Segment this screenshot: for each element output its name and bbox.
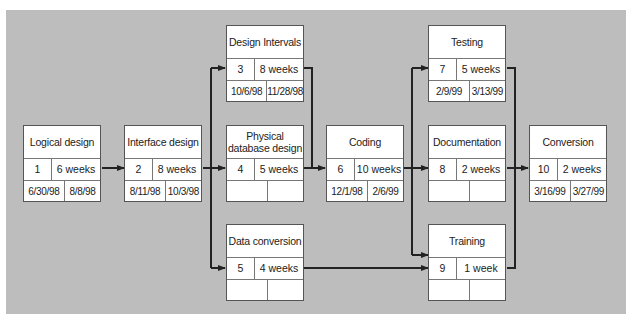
task-number: 7 — [429, 58, 457, 80]
task-start-date — [429, 280, 470, 300]
arrow-3-to-6 — [303, 68, 312, 168]
task-end-date: 3/27/99 — [571, 181, 606, 201]
task-number: 3 — [227, 58, 255, 80]
task-node-interface-design: Interface design 28 weeks 8/11/9810/3/98 — [124, 125, 202, 202]
task-end-date: 10/3/98 — [166, 181, 201, 201]
task-end-date: 11/28/98 — [267, 81, 303, 101]
task-duration: 2 weeks — [558, 158, 606, 180]
task-end-date — [268, 280, 303, 300]
task-duration: 8 weeks — [255, 58, 303, 80]
task-duration: 5 weeks — [457, 58, 505, 80]
task-node-design-intervals: Design Intervals 38 weeks 10/6/9811/28/9… — [226, 25, 304, 102]
task-number: 4 — [227, 158, 255, 180]
task-number: 1 — [24, 158, 52, 180]
task-end-date — [470, 280, 505, 300]
task-title: Design Intervals — [227, 26, 303, 59]
task-start-date: 2/9/99 — [429, 81, 470, 101]
task-node-conversion: Conversion 102 weeks 3/16/993/27/99 — [529, 125, 607, 202]
task-number: 5 — [227, 257, 255, 279]
task-duration: 6 weeks — [52, 158, 100, 180]
task-node-data-conversion: Data conversion 54 weeks — [226, 224, 304, 301]
task-start-date — [429, 181, 470, 201]
task-duration: 5 weeks — [255, 158, 303, 180]
task-title: Testing — [429, 26, 505, 59]
task-title: Coding — [327, 126, 403, 159]
task-end-date: 3/13/99 — [470, 81, 505, 101]
task-number: 8 — [429, 158, 457, 180]
task-node-testing: Testing 75 weeks 2/9/993/13/99 — [428, 25, 506, 102]
task-number: 6 — [327, 158, 355, 180]
task-title: Interface design — [125, 126, 201, 159]
task-duration: 1 week — [457, 257, 505, 279]
task-duration: 4 weeks — [255, 257, 303, 279]
task-title: Documentation — [429, 126, 505, 159]
task-title: Logical design — [24, 126, 100, 159]
task-start-date: 10/6/98 — [227, 81, 267, 101]
task-node-documentation: Documentation 82 weeks — [428, 125, 506, 202]
task-number: 10 — [530, 158, 558, 180]
task-number: 9 — [429, 257, 457, 279]
task-end-date — [268, 181, 303, 201]
task-start-date: 8/11/98 — [125, 181, 166, 201]
task-node-logical-design: Logical design 16 weeks 6/30/988/8/98 — [23, 125, 101, 202]
task-duration: 8 weeks — [153, 158, 201, 180]
task-node-physical-database-design: Physical database design 45 weeks — [226, 125, 304, 202]
task-start-date: 6/30/98 — [24, 181, 65, 201]
task-start-date: 12/1/98 — [327, 181, 368, 201]
task-number: 2 — [125, 158, 153, 180]
task-end-date — [470, 181, 505, 201]
task-duration: 2 weeks — [457, 158, 505, 180]
task-start-date — [227, 181, 268, 201]
task-node-coding: Coding 610 weeks 12/1/982/6/99 — [326, 125, 404, 202]
task-end-date: 8/8/98 — [65, 181, 100, 201]
task-title: Data conversion — [227, 225, 303, 258]
task-title: Physical database design — [227, 126, 303, 159]
task-start-date — [227, 280, 268, 300]
task-start-date: 3/16/99 — [530, 181, 571, 201]
task-title: Conversion — [530, 126, 606, 159]
task-title: Training — [429, 225, 505, 258]
task-end-date: 2/6/99 — [368, 181, 403, 201]
task-node-training: Training 91 week — [428, 224, 506, 301]
task-duration: 10 weeks — [355, 158, 403, 180]
